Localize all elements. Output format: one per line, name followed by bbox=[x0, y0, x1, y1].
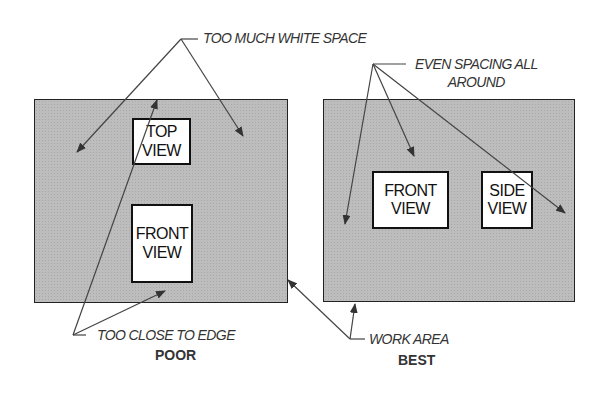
even-spacing-label: EVEN SPACING ALL AROUND bbox=[415, 56, 538, 90]
poor-top-view-line2: VIEW bbox=[142, 142, 181, 160]
best-front-view: FRONT VIEW bbox=[372, 171, 449, 229]
poor-caption: POOR bbox=[155, 347, 196, 363]
work-area-label: WORK AREA bbox=[369, 331, 449, 347]
poor-front-view-line1: FRONT bbox=[136, 225, 189, 243]
best-front-view-line2: VIEW bbox=[391, 200, 430, 218]
even-spacing-line2: AROUND bbox=[415, 74, 538, 90]
poor-top-view-line1: TOP bbox=[146, 123, 177, 141]
best-caption: BEST bbox=[398, 352, 435, 368]
best-front-view-line1: FRONT bbox=[384, 182, 437, 200]
poor-top-view: TOP VIEW bbox=[132, 118, 191, 165]
best-side-view-line2: VIEW bbox=[488, 200, 527, 218]
too-close-to-edge-label: TOO CLOSE TO EDGE bbox=[97, 327, 235, 343]
best-work-area bbox=[323, 99, 575, 302]
best-side-view-line1: SIDE bbox=[489, 182, 524, 200]
poor-front-view: FRONT VIEW bbox=[131, 204, 193, 283]
too-much-white-space-label: TOO MUCH WHITE SPACE bbox=[203, 30, 366, 46]
even-spacing-line1: EVEN SPACING ALL bbox=[415, 56, 538, 72]
poor-front-view-line2: VIEW bbox=[143, 244, 182, 262]
best-side-view: SIDE VIEW bbox=[481, 171, 533, 229]
